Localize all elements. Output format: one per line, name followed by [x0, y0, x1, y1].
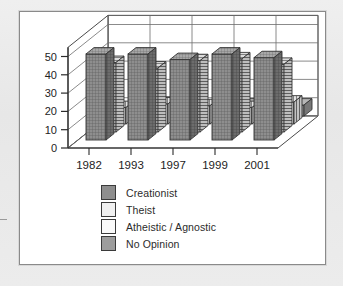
chart-legend: Creationist Theist Atheistic / Agnostic …	[101, 184, 301, 252]
legend-swatch-creationist	[101, 185, 116, 200]
y-axis-tick-label: 20	[45, 105, 57, 117]
x-axis-tick-label: 1997	[160, 159, 186, 171]
x-axis-tick-label: 1982	[76, 159, 102, 171]
legend-label-atheistic-agnostic: Atheistic / Agnostic	[126, 221, 216, 233]
bar-3d	[128, 48, 156, 140]
bar-3d	[212, 48, 240, 140]
bar-3d	[254, 51, 282, 140]
legend-item-atheistic-agnostic: Atheistic / Agnostic	[101, 218, 301, 235]
y-axis-tick-label: 30	[45, 87, 57, 99]
x-axis-tick-label: 1993	[118, 159, 144, 171]
bar-3d	[170, 53, 198, 140]
x-axis-tick-label: 2001	[244, 159, 270, 171]
bar-3d	[86, 48, 114, 140]
x-axis-tick-label: 1999	[202, 159, 228, 171]
scan-edge-mark	[0, 219, 7, 220]
legend-swatch-no-opinion	[101, 236, 116, 251]
legend-label-no-opinion: No Opinion	[126, 238, 180, 250]
legend-item-theist: Theist	[101, 201, 301, 218]
legend-swatch-theist	[101, 202, 116, 217]
y-axis-tick-label: 0	[51, 142, 57, 154]
screenshot-root: 0102030405019821993199719992001 Creation…	[0, 0, 343, 286]
y-axis-tick-label: 40	[45, 69, 57, 81]
chart-panel: 0102030405019821993199719992001 Creation…	[19, 11, 326, 265]
legend-label-theist: Theist	[126, 204, 155, 216]
y-axis-tick-label: 10	[45, 124, 57, 136]
legend-item-creationist: Creationist	[101, 184, 301, 201]
y-axis-tick-label: 50	[45, 51, 57, 63]
legend-label-creationist: Creationist	[126, 187, 177, 199]
legend-item-no-opinion: No Opinion	[101, 235, 301, 252]
chart-render-layer: 0102030405019821993199719992001	[45, 15, 318, 171]
legend-swatch-atheistic-agnostic	[101, 219, 116, 234]
